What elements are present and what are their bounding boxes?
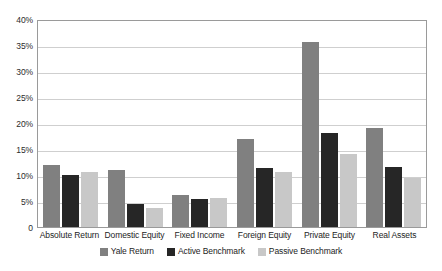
- x-tick-label: Absolute Return: [37, 230, 102, 241]
- bar[interactable]: [127, 204, 144, 227]
- bar-chart: 40%35%30%25%20%15%10%5%0 Absolute Return…: [0, 0, 442, 271]
- bar[interactable]: [385, 167, 402, 227]
- bar[interactable]: [108, 170, 125, 227]
- x-tick-label: Fixed Income: [167, 230, 232, 241]
- bar[interactable]: [340, 154, 357, 227]
- bar[interactable]: [81, 172, 98, 227]
- x-axis: Absolute ReturnDomestic EquityFixed Inco…: [37, 230, 427, 241]
- legend-item[interactable]: Yale Return: [100, 247, 154, 256]
- x-tick-label: Real Assets: [362, 230, 427, 241]
- x-tick-label: Foreign Equity: [232, 230, 297, 241]
- bar[interactable]: [43, 165, 60, 227]
- bar-group: [361, 21, 426, 227]
- bar[interactable]: [275, 172, 292, 227]
- y-tick-label: 20%: [0, 120, 33, 129]
- bar[interactable]: [172, 195, 189, 227]
- bar[interactable]: [237, 139, 254, 227]
- y-tick-label: 35%: [0, 42, 33, 51]
- legend-swatch-icon: [167, 248, 175, 256]
- chart-legend: Yale ReturnActive BenchmarkPassive Bench…: [0, 247, 442, 256]
- y-tick-label: 5%: [0, 198, 33, 207]
- y-tick-label: 25%: [0, 94, 33, 103]
- bars-container: [38, 21, 426, 227]
- bar[interactable]: [146, 208, 163, 227]
- y-tick-label: 0: [0, 224, 33, 233]
- bar-group: [297, 21, 362, 227]
- bar[interactable]: [366, 128, 383, 227]
- y-tick-label: 15%: [0, 146, 33, 155]
- y-tick-label: 40%: [0, 16, 33, 25]
- bar-group: [167, 21, 232, 227]
- bar[interactable]: [62, 175, 79, 227]
- bar[interactable]: [191, 199, 208, 227]
- bar-group: [103, 21, 168, 227]
- legend-swatch-icon: [100, 248, 108, 256]
- bar[interactable]: [256, 168, 273, 227]
- legend-swatch-icon: [258, 248, 266, 256]
- y-axis: 40%35%30%25%20%15%10%5%0: [0, 0, 33, 271]
- bar[interactable]: [404, 178, 421, 227]
- y-tick-label: 10%: [0, 172, 33, 181]
- legend-label: Passive Benchmark: [269, 247, 342, 256]
- plot-area: [37, 20, 427, 228]
- x-tick-label: Private Equity: [297, 230, 362, 241]
- bar-group: [232, 21, 297, 227]
- legend-item[interactable]: Passive Benchmark: [258, 247, 342, 256]
- legend-label: Yale Return: [111, 247, 154, 256]
- bar-group: [38, 21, 103, 227]
- bar[interactable]: [210, 198, 227, 227]
- x-tick-label: Domestic Equity: [102, 230, 167, 241]
- legend-item[interactable]: Active Benchmark: [167, 247, 245, 256]
- legend-label: Active Benchmark: [178, 247, 245, 256]
- bar[interactable]: [321, 133, 338, 227]
- y-tick-label: 30%: [0, 68, 33, 77]
- bar[interactable]: [302, 42, 319, 227]
